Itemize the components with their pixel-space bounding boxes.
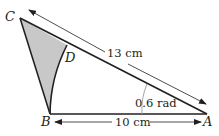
triangle-diagram: C D B A 13 cm 10 cm 0.6 rad xyxy=(0,0,219,136)
label-d: D xyxy=(64,50,76,65)
label-c: C xyxy=(5,9,15,24)
label-ca-length: 13 cm xyxy=(107,46,143,60)
label-ba-length: 10 cm xyxy=(115,115,151,129)
label-a: A xyxy=(202,114,212,129)
label-b: B xyxy=(40,114,51,129)
shaded-region xyxy=(20,18,67,114)
label-angle-a: 0.6 rad xyxy=(135,96,177,110)
